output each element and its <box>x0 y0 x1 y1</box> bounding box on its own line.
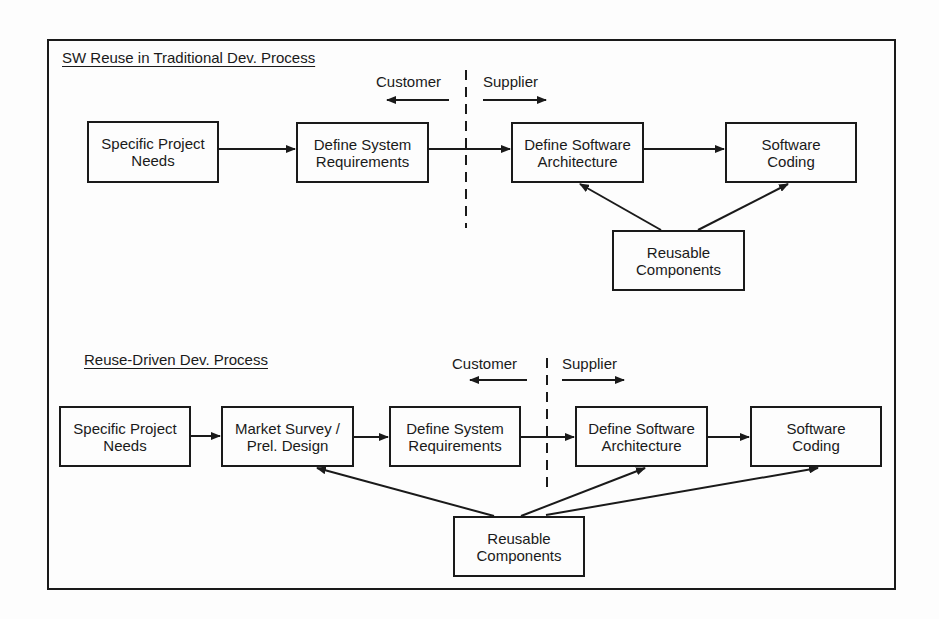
box-line1: Define System <box>314 136 412 153</box>
box-line1: Software <box>786 420 845 437</box>
box-line1: Reusable <box>647 244 710 261</box>
box-line2: Architecture <box>537 153 617 170</box>
box-line2: Components <box>636 261 721 278</box>
box-line1: Software <box>761 136 820 153</box>
box-line2: Needs <box>103 437 146 454</box>
box-line2: Components <box>476 547 561 564</box>
arrow-reuse-to-survey-bottom <box>317 468 494 516</box>
box-line2: Coding <box>792 437 840 454</box>
box-line2: Requirements <box>316 153 409 170</box>
box-line2: Requirements <box>408 437 501 454</box>
section-title-traditional: SW Reuse in Traditional Dev. Process <box>62 49 315 66</box>
box-line1: Specific Project <box>73 420 176 437</box>
box-line2: Needs <box>131 152 174 169</box>
box-specific-project-needs-bottom: Specific Project Needs <box>59 406 191 467</box>
customer-label-top: Customer <box>376 73 441 90</box>
box-define-system-requirements-bottom: Define System Requirements <box>389 406 521 467</box>
supplier-label-bottom: Supplier <box>562 355 617 372</box>
box-software-coding-top: Software Coding <box>725 122 857 183</box>
box-define-software-architecture-top: Define Software Architecture <box>511 122 644 183</box>
box-reusable-components-bottom: Reusable Components <box>453 516 585 577</box>
box-define-system-requirements-top: Define System Requirements <box>296 122 429 183</box>
supplier-label-top: Supplier <box>483 73 538 90</box>
box-line2: Coding <box>767 153 815 170</box>
box-market-survey-bottom: Market Survey / Prel. Design <box>221 406 354 467</box>
box-reusable-components-top: Reusable Components <box>612 230 745 291</box>
box-software-coding-bottom: Software Coding <box>750 406 882 467</box>
section-title-reuse-driven: Reuse-Driven Dev. Process <box>84 351 268 368</box>
box-line2: Architecture <box>601 437 681 454</box>
box-define-software-architecture-bottom: Define Software Architecture <box>575 406 708 467</box>
box-line1: Reusable <box>487 530 550 547</box>
box-line1: Specific Project <box>101 135 204 152</box>
box-line1: Market Survey / <box>235 420 340 437</box>
arrow-reuse-to-coding-top <box>698 184 788 230</box>
box-line1: Define Software <box>588 420 695 437</box>
customer-label-bottom: Customer <box>452 355 517 372</box>
box-line1: Define Software <box>524 136 631 153</box>
arrow-reuse-to-arch-top <box>580 184 661 230</box>
box-line1: Define System <box>406 420 504 437</box>
box-line2: Prel. Design <box>247 437 329 454</box>
box-specific-project-needs-top: Specific Project Needs <box>87 121 219 183</box>
